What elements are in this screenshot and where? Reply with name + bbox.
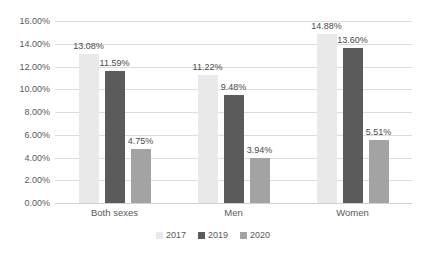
bar-value-label: 11.59% [100, 59, 130, 68]
y-axis: 0.00%2.00%4.00%6.00%8.00%10.00%12.00%14.… [0, 0, 50, 255]
legend-label: 2017 [166, 231, 186, 240]
bar-group: 11.22%9.48%3.94% [198, 21, 270, 203]
axis-baseline [55, 203, 412, 204]
bar-value-label: 11.22% [193, 63, 223, 72]
bar [131, 149, 151, 203]
x-category-label: Women [336, 208, 369, 218]
plot-area: 13.08%11.59%4.75%11.22%9.48%3.94%14.88%1… [55, 21, 412, 203]
legend-item[interactable]: 2020 [240, 231, 270, 240]
bar [250, 158, 270, 203]
y-tick-label: 4.00% [0, 153, 50, 162]
y-tick-label: 12.00% [0, 62, 50, 71]
y-tick-label: 2.00% [0, 176, 50, 185]
bar [79, 54, 99, 203]
bar-chart: 0.00%2.00%4.00%6.00%8.00%10.00%12.00%14.… [0, 0, 426, 255]
legend-swatch-icon [198, 232, 205, 239]
y-tick-label: 16.00% [0, 17, 50, 26]
legend-label: 2019 [208, 231, 228, 240]
bar-value-label: 13.60% [337, 36, 368, 45]
y-tick-label: 8.00% [0, 108, 50, 117]
legend-item[interactable]: 2017 [156, 231, 186, 240]
legend-label: 2020 [250, 231, 270, 240]
y-tick-label: 14.00% [0, 39, 50, 48]
bar-group: 13.08%11.59%4.75% [79, 21, 151, 203]
y-tick-label: 10.00% [0, 85, 50, 94]
legend-swatch-icon [156, 232, 163, 239]
bar [343, 48, 363, 203]
bar-value-label: 9.48% [221, 83, 247, 92]
legend-swatch-icon [240, 232, 247, 239]
x-category-label: Men [224, 208, 242, 218]
chart-legend: 201720192020 [0, 231, 426, 240]
bar [369, 140, 389, 203]
y-tick-label: 0.00% [0, 199, 50, 208]
legend-item[interactable]: 2019 [198, 231, 228, 240]
bar-value-label: 4.75% [128, 137, 154, 146]
y-tick-label: 6.00% [0, 130, 50, 139]
bar [224, 95, 244, 203]
bar [105, 71, 125, 203]
bar [317, 34, 337, 203]
bar-value-label: 5.51% [366, 128, 392, 137]
bar-value-label: 3.94% [247, 146, 273, 155]
bar-group: 14.88%13.60%5.51% [317, 21, 389, 203]
x-category-label: Both sexes [91, 208, 138, 218]
bar [198, 75, 218, 203]
bar-value-label: 13.08% [73, 42, 104, 51]
bar-value-label: 14.88% [311, 22, 342, 31]
